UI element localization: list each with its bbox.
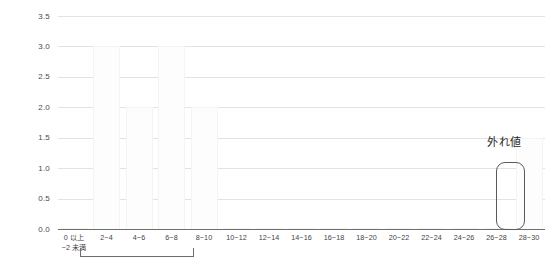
y-tick-label-0-0: 0.0 xyxy=(12,226,50,234)
bar-3 xyxy=(158,46,185,229)
y-tick-label-0-5: 0.5 xyxy=(12,195,50,203)
y-tick-label-2-0: 2.0 xyxy=(12,104,50,112)
y-tick-label-2-5: 2.5 xyxy=(12,73,50,81)
y-tick-label-1-0: 1.0 xyxy=(12,165,50,173)
histogram-chart: 3.5 3.0 2.5 2.0 1.5 1.0 0.5 0.0 0 以上 ~2 … xyxy=(0,0,558,270)
bar-series xyxy=(58,16,545,229)
outlier-highlight-box xyxy=(496,162,525,230)
x-tick-label-14: 28~30 xyxy=(505,233,554,243)
y-tick-label-3-5: 3.5 xyxy=(12,13,50,21)
x-axis-line xyxy=(58,229,545,230)
outlier-annotation-label: 外れ値 xyxy=(487,133,522,149)
bar-2 xyxy=(126,107,153,229)
range-bracket xyxy=(80,248,194,257)
y-tick-label-1-5: 1.5 xyxy=(12,134,50,142)
bar-1 xyxy=(93,46,120,229)
y-tick-label-3-0: 3.0 xyxy=(12,43,50,51)
bar-4 xyxy=(191,107,218,229)
